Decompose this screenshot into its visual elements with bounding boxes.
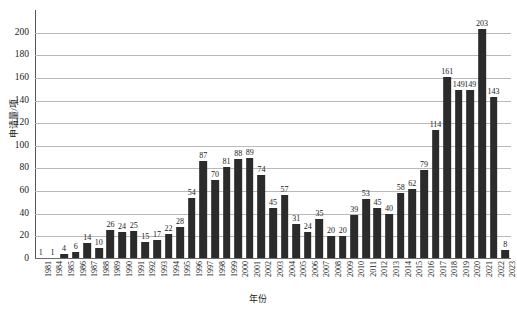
y-axis-tick-label: 120 [15, 118, 29, 128]
bar[interactable] [385, 214, 393, 259]
x-axis-tick-label: 1993 [161, 261, 169, 277]
bar-slot: 79 [418, 10, 430, 259]
bar[interactable] [165, 234, 173, 259]
bar-value-label: 62 [408, 180, 416, 188]
bar-slot: 114 [430, 10, 442, 259]
bar-value-label: 6 [74, 243, 78, 251]
bar-value-label: 79 [420, 161, 428, 169]
bar[interactable] [443, 77, 451, 259]
bar-slot: 161 [441, 10, 453, 259]
bar-slot: 149 [465, 10, 477, 259]
bar-slot: 14 [81, 10, 93, 259]
x-axis-tick-label: 1994 [173, 261, 181, 277]
bar-slot: 58 [395, 10, 407, 259]
bar[interactable] [200, 161, 208, 259]
bar-slot: 6 [70, 10, 82, 259]
bar[interactable] [362, 199, 370, 259]
bar-slot: 1 [47, 10, 59, 259]
bar-value-label: 31 [292, 215, 300, 223]
bar-value-label: 22 [165, 225, 173, 233]
bar[interactable] [153, 240, 161, 259]
x-axis-tick-label: 2000 [242, 261, 250, 277]
bar-series: 1146141026242515172228548770818889744557… [35, 10, 511, 259]
bar[interactable] [374, 208, 382, 259]
bar[interactable] [397, 193, 405, 259]
bar[interactable] [130, 231, 138, 259]
bar-slot: 143 [488, 10, 500, 259]
y-axis-tick-label: 200 [15, 28, 29, 38]
bar-slot: 45 [267, 10, 279, 259]
bar[interactable] [211, 180, 219, 259]
bar[interactable] [107, 230, 115, 259]
bar-slot: 40 [383, 10, 395, 259]
bar-slot: 24 [116, 10, 128, 259]
bar[interactable] [408, 189, 416, 259]
bar-slot: 74 [256, 10, 268, 259]
x-axis-tick-label: 2014 [405, 261, 413, 277]
bar-value-label: 45 [269, 199, 277, 207]
bar-value-label: 20 [327, 227, 335, 235]
x-axis-tick-label: 2008 [335, 261, 343, 277]
bar[interactable] [188, 198, 196, 259]
x-axis-tick-label: 2007 [323, 261, 331, 277]
x-axis-tick-label: 2011 [370, 261, 378, 277]
bar[interactable] [350, 215, 358, 259]
bar[interactable] [420, 170, 428, 259]
bar-value-label: 25 [130, 222, 138, 230]
bar-value-label: 88 [234, 150, 242, 158]
bar[interactable] [292, 224, 300, 259]
x-axis-tick-label: 2009 [347, 261, 355, 277]
x-axis-tick-label: 2006 [312, 261, 320, 277]
bar[interactable] [223, 167, 231, 259]
bar[interactable] [478, 29, 486, 259]
bar-slot: 20 [325, 10, 337, 259]
x-axis-tick-label: 1996 [196, 261, 204, 277]
bar[interactable] [246, 158, 254, 259]
bar[interactable] [339, 236, 347, 259]
x-axis-tick-label: 1981 [45, 261, 53, 277]
bar[interactable] [281, 195, 289, 260]
bar-slot: 24 [302, 10, 314, 259]
x-axis-tick-label: 1999 [231, 261, 239, 277]
bar-value-label: 87 [199, 152, 207, 160]
bar-value-label: 89 [246, 149, 254, 157]
x-axis-tick-label: 1987 [91, 261, 99, 277]
bar[interactable] [304, 232, 312, 259]
bar[interactable] [83, 243, 91, 259]
bar-value-label: 24 [118, 223, 126, 231]
bar-slot: 4 [58, 10, 70, 259]
bar-value-label: 54 [188, 189, 196, 197]
bar-slot: 87 [198, 10, 210, 259]
bar-value-label: 57 [281, 186, 289, 194]
bar-slot: 17 [151, 10, 163, 259]
bar[interactable] [234, 159, 242, 259]
bar-value-label: 149 [464, 81, 476, 89]
bar-slot: 53 [360, 10, 372, 259]
bar-slot: 25 [128, 10, 140, 259]
bar-slot: 31 [290, 10, 302, 259]
bar[interactable] [455, 90, 463, 259]
bar[interactable] [141, 242, 149, 259]
bar[interactable] [118, 232, 126, 259]
bar[interactable] [467, 90, 475, 259]
bar-value-label: 45 [373, 199, 381, 207]
bar-slot: 1 [35, 10, 47, 259]
bar[interactable] [176, 227, 184, 259]
y-axis-tick-label: 80 [20, 164, 30, 174]
bar-value-label: 40 [385, 205, 393, 213]
bar[interactable] [327, 236, 335, 259]
bar[interactable] [269, 208, 277, 259]
bar[interactable] [432, 130, 440, 259]
x-axis-tick-label: 2018 [451, 261, 459, 277]
x-axis-tick-label: 1998 [219, 261, 227, 277]
x-axis-tick-label: 2023 [509, 261, 517, 277]
bar-value-label: 74 [257, 166, 265, 174]
bar[interactable] [258, 175, 266, 259]
x-axis-tick-label: 2003 [277, 261, 285, 277]
x-axis-tick-label: 2020 [474, 261, 482, 277]
bar-slot: 35 [314, 10, 326, 259]
bar-slot: 45 [372, 10, 384, 259]
bar-slot: 15 [139, 10, 151, 259]
bar[interactable] [490, 97, 498, 259]
bar[interactable] [316, 219, 324, 259]
